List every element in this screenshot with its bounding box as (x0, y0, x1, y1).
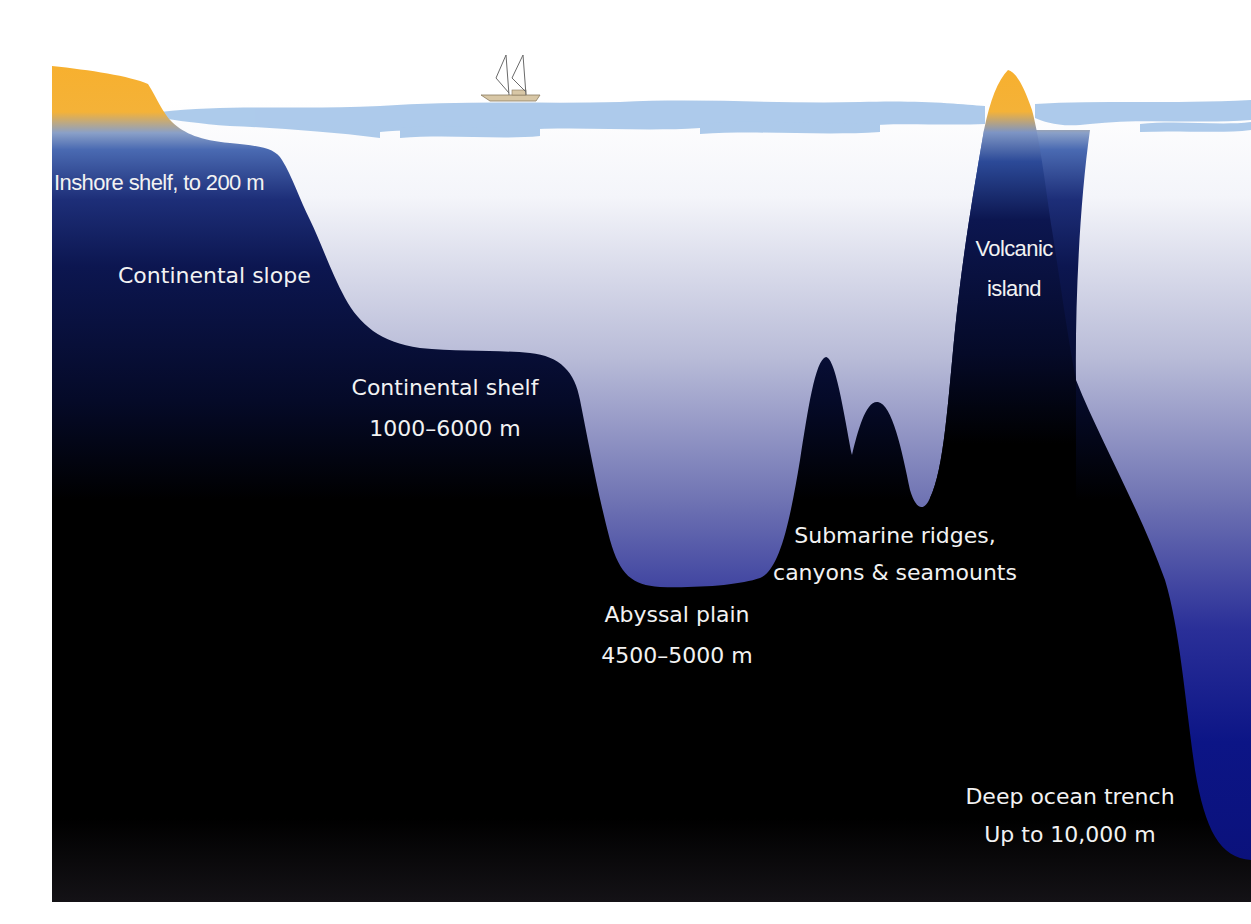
label-continental-slope: Continental slope (118, 265, 311, 287)
label-deep-ocean-trench-depth: Up to 10,000 m (955, 824, 1185, 846)
sailboat-icon (481, 55, 540, 101)
label-abyssal-plain: Abyssal plain 4500–5000 m (582, 604, 772, 667)
label-deep-ocean-trench-line1: Deep ocean trench (955, 786, 1185, 808)
label-volcanic-island-line1: Volcanic (962, 238, 1066, 260)
label-abyssal-plain-depth: 4500–5000 m (582, 645, 772, 667)
label-volcanic-island-line2: island (962, 278, 1066, 300)
label-abyssal-plain-line1: Abyssal plain (582, 604, 772, 626)
label-continental-shelf-line1: Continental shelf (340, 377, 550, 399)
label-continental-shelf: Continental shelf 1000–6000 m (340, 377, 550, 440)
label-continental-slope-line1: Continental slope (118, 265, 311, 287)
label-volcanic-island: Volcanic island (962, 238, 1066, 300)
label-inshore-shelf-line1: Inshore shelf, to 200 m (54, 172, 264, 194)
label-submarine-ridges-line2: canyons & seamounts (760, 562, 1030, 584)
label-inshore-shelf: Inshore shelf, to 200 m (54, 172, 264, 194)
label-continental-shelf-depth: 1000–6000 m (340, 418, 550, 440)
label-submarine-ridges: Submarine ridges, canyons & seamounts (760, 525, 1030, 584)
ocean-floor-diagram: Inshore shelf, to 200 m Continental slop… (0, 0, 1251, 924)
label-deep-ocean-trench: Deep ocean trench Up to 10,000 m (955, 786, 1185, 846)
label-submarine-ridges-line1: Submarine ridges, (760, 525, 1030, 547)
